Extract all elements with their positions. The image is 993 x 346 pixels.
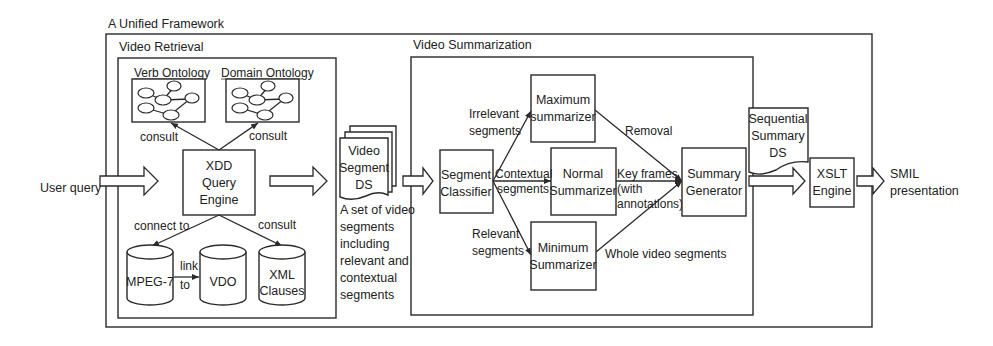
- svg-text:A set of video: A set of video: [340, 203, 415, 217]
- domain-ontology-title: Domain Ontology: [221, 66, 314, 80]
- svg-text:Summarizer: Summarizer: [549, 184, 616, 198]
- xslt-engine: XSLT Engine: [810, 158, 854, 207]
- svg-text:segments: segments: [340, 288, 394, 302]
- svg-text:Classifier: Classifier: [440, 185, 491, 199]
- svg-text:(with: (with: [617, 182, 642, 196]
- smil-output-arrow: [857, 168, 884, 194]
- minimum-summarizer: Minimum Summarizer: [529, 222, 596, 290]
- svg-text:DS: DS: [355, 178, 372, 192]
- svg-text:Summarizer: Summarizer: [529, 258, 596, 272]
- user-query-label: User query: [40, 181, 102, 195]
- edge-consult-verb: [171, 123, 219, 150]
- svg-text:Clauses: Clauses: [259, 284, 304, 298]
- svg-text:segments: segments: [472, 244, 524, 258]
- classifier-input-arrow: [403, 168, 433, 194]
- svg-text:relevant and: relevant and: [340, 254, 409, 268]
- to-label: to: [180, 278, 190, 292]
- normal-summarizer: Normal Summarizer: [549, 148, 616, 215]
- svg-text:MPEG-7: MPEG-7: [126, 275, 174, 289]
- svg-text:Query: Query: [202, 176, 237, 190]
- retrieval-output-arrow: [270, 167, 327, 195]
- svg-text:segments: segments: [340, 220, 394, 234]
- svg-text:summarizer: summarizer: [530, 110, 595, 124]
- sequential-summary-ds: Sequential Summary DS: [748, 108, 808, 174]
- svg-text:VDO: VDO: [209, 275, 236, 289]
- video-segment-ds: Video Segment DS: [339, 126, 396, 199]
- svg-text:Sequential: Sequential: [748, 112, 807, 126]
- database-mpeg7: MPEG-7: [126, 245, 174, 305]
- connect-to-label: connect to: [134, 219, 190, 233]
- database-vdo: VDO: [200, 245, 246, 305]
- svg-text:Summary: Summary: [751, 129, 805, 143]
- svg-text:Generator: Generator: [686, 184, 742, 198]
- video-summarization-title: Video Summarization: [413, 38, 532, 52]
- domain-ontology: Domain Ontology: [221, 66, 314, 122]
- smil-presentation-label: SMIL presentation: [890, 167, 959, 198]
- svg-text:segments: segments: [469, 124, 521, 138]
- svg-text:Minimum: Minimum: [538, 241, 589, 255]
- svg-text:contextual: contextual: [340, 271, 397, 285]
- link-label: link: [180, 259, 199, 273]
- unified-framework-title: A Unified Framework: [108, 17, 225, 31]
- keyframes-label: Key frames: [617, 167, 678, 181]
- svg-text:Segment: Segment: [339, 161, 390, 175]
- removal-label: Removal: [625, 124, 672, 138]
- svg-text:Summary: Summary: [687, 167, 741, 181]
- svg-text:Engine: Engine: [813, 184, 852, 198]
- irrelevant-label: Irrelevant: [469, 107, 520, 121]
- segment-classifier: Segment Classifier: [440, 150, 493, 213]
- database-xml-clauses: XML Clauses: [259, 245, 305, 305]
- whole-video-label: Whole video segments: [605, 247, 726, 261]
- xdd-query-engine: XDD Query Engine: [183, 150, 255, 215]
- svg-text:DS: DS: [769, 146, 786, 160]
- svg-text:XML: XML: [269, 268, 295, 282]
- svg-text:XDD: XDD: [206, 159, 232, 173]
- svg-text:including: including: [340, 237, 389, 251]
- svg-text:Maximum: Maximum: [536, 93, 590, 107]
- svg-text:Engine: Engine: [200, 193, 239, 207]
- verb-ontology: Verb Ontology: [132, 66, 210, 122]
- video-segment-ds-caption: A set of video segments including releva…: [340, 203, 415, 302]
- relevant-label: Relevant: [472, 227, 520, 241]
- svg-text:annotations): annotations): [617, 197, 683, 211]
- svg-text:presentation: presentation: [890, 184, 959, 198]
- consult-xml-label: consult: [258, 218, 297, 232]
- consult-domain-label: consult: [249, 129, 288, 143]
- unified-framework-diagram: A Unified Framework Video Retrieval Verb…: [0, 0, 993, 346]
- svg-text:Segment: Segment: [441, 168, 492, 182]
- user-query-arrow: [100, 167, 158, 195]
- svg-text:Video: Video: [348, 144, 380, 158]
- consult-verb-label: consult: [140, 130, 179, 144]
- svg-text:SMIL: SMIL: [890, 167, 919, 181]
- summary-generator: Summary Generator: [682, 148, 746, 216]
- svg-text:segments: segments: [497, 182, 549, 196]
- video-retrieval-title: Video Retrieval: [119, 40, 204, 54]
- verb-ontology-title: Verb Ontology: [134, 66, 210, 80]
- contextual-label: Contextual: [495, 167, 552, 181]
- svg-text:Normal: Normal: [563, 167, 603, 181]
- svg-text:XSLT: XSLT: [817, 167, 848, 181]
- maximum-summarizer: Maximum summarizer: [530, 75, 595, 142]
